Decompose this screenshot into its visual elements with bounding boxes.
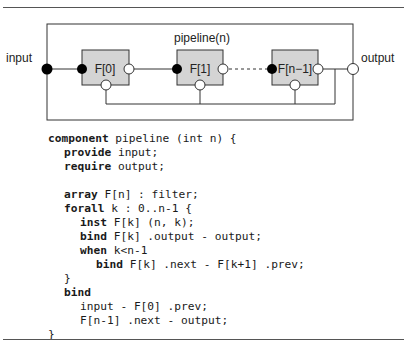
filter-f0: F[0]: [77, 50, 134, 90]
code-text: input;: [111, 146, 158, 159]
code-keyword: component: [48, 132, 109, 145]
code-line: inst F[k] (n, k);: [48, 216, 305, 230]
code-line: component pipeline (int n) {: [48, 132, 305, 146]
code-text: pipeline (int n) {: [109, 132, 237, 145]
code-text: }: [64, 272, 71, 285]
input-label: input: [6, 51, 33, 65]
code-listing: component pipeline (int n) {provide inpu…: [48, 132, 305, 342]
code-text: F[k] .output - output;: [107, 230, 262, 243]
code-line: require output;: [48, 160, 305, 174]
port-next-open: [313, 64, 323, 74]
pipeline-output-port: [348, 64, 359, 75]
port-output-open: [195, 80, 205, 90]
port-output-open: [290, 80, 300, 90]
port-next-open: [218, 64, 228, 74]
code-line: provide input;: [48, 146, 305, 160]
svg-text:F[1]: F[1]: [190, 62, 211, 76]
code-keyword: forall: [64, 202, 104, 215]
code-text: input - F[0] .prev;: [80, 300, 208, 313]
code-line: forall k : 0..n-1 {: [48, 202, 305, 216]
code-text: F[k] (n, k);: [107, 216, 195, 229]
port-prev-filled: [267, 64, 277, 74]
code-line: }: [48, 272, 305, 286]
pipeline-label: pipeline(n): [174, 31, 230, 45]
code-line: input - F[0] .prev;: [48, 300, 305, 314]
code-text: F[n] : filter;: [98, 188, 199, 201]
code-keyword: require: [64, 160, 111, 173]
code-line: when k<n-1: [48, 244, 305, 258]
code-line: array F[n] : filter;: [48, 188, 305, 202]
code-text: k : 0..n-1 {: [104, 202, 192, 215]
bottom-rule: [3, 339, 404, 340]
code-line: [48, 174, 305, 188]
filter-f1: F[1]: [172, 50, 228, 90]
code-text: F[k] .next - F[k+1] .prev;: [123, 258, 305, 271]
code-keyword: inst: [80, 216, 107, 229]
svg-text:F[n−1]: F[n−1]: [278, 62, 312, 76]
port-prev-filled: [172, 64, 182, 74]
code-line: bind F[k] .next - F[k+1] .prev;: [48, 258, 305, 272]
filter-fn-1: F[n−1]: [267, 50, 323, 90]
svg-text:F[0]: F[0]: [95, 62, 116, 76]
port-next-open: [124, 64, 134, 74]
pipeline-diagram: pipeline(n) F[0] F[1] F[n−1] input outpu…: [0, 0, 410, 130]
code-keyword: provide: [64, 146, 111, 159]
code-text: k<n-1: [107, 244, 147, 257]
code-text: output;: [111, 160, 165, 173]
pipeline-input-port: [42, 64, 53, 75]
code-line: F[n-1] .next - output;: [48, 314, 305, 328]
code-line: bind: [48, 286, 305, 300]
code-line: bind F[k] .output - output;: [48, 230, 305, 244]
code-text: F[n-1] .next - output;: [80, 314, 228, 327]
port-output-open: [101, 80, 111, 90]
output-label: output: [361, 51, 395, 65]
code-keyword: when: [80, 244, 107, 257]
code-keyword: bind: [80, 230, 107, 243]
code-keyword: array: [64, 188, 98, 201]
code-keyword: bind: [64, 286, 91, 299]
port-prev-filled: [77, 64, 87, 74]
code-keyword: bind: [96, 258, 123, 271]
